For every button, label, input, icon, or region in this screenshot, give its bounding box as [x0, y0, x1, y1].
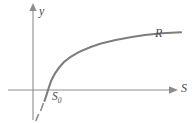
curve-r	[45, 32, 182, 101]
graph-canvas	[0, 0, 196, 123]
curve-tail-segment-upper	[41, 103, 44, 111]
intercept-label-s0: S0	[52, 91, 62, 105]
curve-tail-segment-lower	[36, 114, 39, 121]
graph-figure: y S R S0	[0, 0, 196, 123]
y-axis-arrowhead	[29, 3, 36, 11]
x-axis-label: S	[181, 82, 187, 94]
y-axis-label: y	[39, 5, 44, 17]
x-axis-arrowhead	[169, 86, 178, 94]
y-axis	[29, 3, 36, 120]
curve-label-r: R	[155, 27, 162, 39]
intercept-label-subscript: 0	[58, 96, 62, 105]
